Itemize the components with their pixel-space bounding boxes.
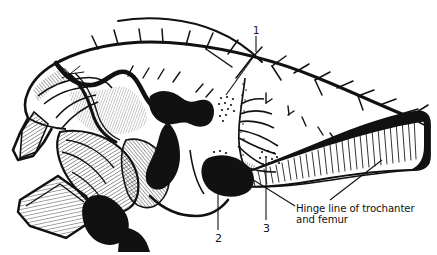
label-number-3: 3 bbox=[263, 222, 270, 235]
dorsal-flange bbox=[118, 18, 262, 62]
hinge-caption-line2: and femur bbox=[296, 214, 415, 225]
leader-line-1b bbox=[226, 56, 254, 95]
hinge-line-caption: Hinge line of trochanter and femur bbox=[296, 203, 415, 226]
leader-line-hinge-a bbox=[247, 176, 295, 206]
label-number-1: 1 bbox=[253, 25, 259, 36]
stipple-patch-upper bbox=[218, 96, 235, 122]
hinge-caption-line1: Hinge line of trochanter bbox=[296, 203, 415, 214]
figure-container: Hinge line of trochanter and femur 1 2 3 bbox=[0, 0, 437, 255]
leader-line-hinge-b bbox=[330, 160, 382, 200]
internal-ridge bbox=[238, 78, 278, 172]
label-number-2: 2 bbox=[215, 232, 222, 245]
